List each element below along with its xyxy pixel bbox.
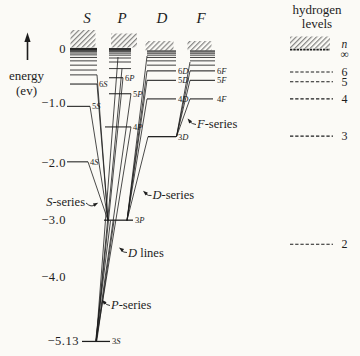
transition-4S-3P bbox=[88, 162, 108, 221]
hydrogen-level-label-3: 3 bbox=[342, 129, 348, 143]
level-label-5F: 5F bbox=[217, 75, 227, 85]
column-F bbox=[188, 41, 216, 99]
grotrian-diagram-svg: S3S4S5S6SP3P4P5P6PD3D4D5D6DF4F5F6FS-seri… bbox=[0, 0, 360, 356]
axis-label-energy: energy bbox=[9, 68, 45, 83]
continuum-hatch-P bbox=[111, 34, 137, 48]
transition-5F-3D bbox=[177, 80, 191, 136]
continuum-hatch-D bbox=[146, 41, 174, 51]
axis-tick--4.0: −4.0 bbox=[41, 270, 66, 284]
column-header-F: F bbox=[195, 10, 206, 26]
d-lines-arrowhead-icon bbox=[119, 248, 124, 252]
hydrogen-title-line2: levels bbox=[302, 16, 332, 31]
transition-4D-3P bbox=[127, 99, 147, 221]
level-label-3S: 3S bbox=[112, 336, 121, 346]
axis-tick--5.13: −5.13 bbox=[48, 334, 79, 348]
hydrogen-limit-infinity: ∞ bbox=[341, 48, 349, 60]
level-label-3D: 3D bbox=[178, 132, 189, 142]
continuum-hatch-S bbox=[71, 30, 96, 48]
level-label-3P: 3P bbox=[135, 215, 144, 225]
level-label-6S: 6S bbox=[99, 79, 108, 89]
up-arrow-icon bbox=[24, 33, 30, 43]
annotation-f-series: F-series bbox=[196, 117, 237, 131]
axis-tick--1.0: −1.0 bbox=[41, 96, 66, 110]
f-series-arrow bbox=[190, 122, 196, 125]
column-header-P: P bbox=[116, 10, 126, 26]
annotation-d-lines: D lines bbox=[127, 246, 164, 260]
axis-tick--2.0: −2.0 bbox=[41, 156, 66, 170]
transition-group-S-series bbox=[88, 75, 108, 221]
hydrogen-level-label-5: 5 bbox=[342, 75, 348, 89]
d-series-arrow bbox=[146, 194, 152, 196]
column-header-D: D bbox=[156, 10, 168, 26]
axis-tick--3.0: −3.0 bbox=[41, 213, 66, 227]
hydrogen-level-label-4: 4 bbox=[342, 92, 348, 106]
annotation-p-series: P-series bbox=[110, 298, 151, 312]
level-label-5P: 5P bbox=[133, 89, 142, 99]
annotation-s-series: S-series bbox=[46, 195, 85, 209]
s-series-arrowhead-icon bbox=[93, 203, 98, 207]
continuum-hatch-F bbox=[188, 41, 212, 51]
grotrian-diagram: S3S4S5S6SP3P4P5P6PD3D4D5D6DF4F5F6FS-seri… bbox=[0, 0, 360, 356]
axis-label-units: (ev) bbox=[16, 83, 37, 98]
transition-6S-3P bbox=[97, 84, 108, 220]
column-D bbox=[146, 41, 177, 137]
annotation-d-series: D-series bbox=[152, 188, 195, 202]
transition-3P-3S-0 bbox=[96, 221, 111, 341]
hydrogen-continuum-hatch bbox=[290, 37, 330, 49]
level-label-6P: 6P bbox=[125, 73, 134, 83]
axis-tick-0: 0 bbox=[59, 42, 66, 56]
column-header-S: S bbox=[83, 10, 91, 26]
level-label-4F: 4F bbox=[217, 94, 227, 104]
hydrogen-title-line1: hydrogen bbox=[292, 2, 342, 17]
hydrogen-level-label-2: 2 bbox=[342, 237, 348, 251]
transition-3P-3S-1 bbox=[97, 221, 114, 341]
level-label-6F: 6F bbox=[217, 66, 227, 76]
